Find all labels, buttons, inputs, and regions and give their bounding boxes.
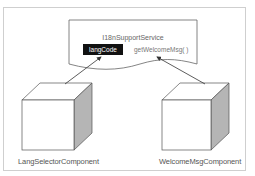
lang-selector-cube-icon xyxy=(22,83,92,150)
welcome-msg-component-label: WelcomeMsgComponent xyxy=(159,157,241,166)
welcome-msg-cube-icon xyxy=(162,83,229,150)
langcode-property: langCode xyxy=(83,44,123,55)
service-title: I18nSupportService xyxy=(102,34,163,41)
arrow-welcome-to-getwelcomemsg xyxy=(157,57,205,84)
lang-selector-component-label: LangSelectorComponent xyxy=(18,157,99,166)
get-welcome-msg-method: getWelcomeMsg( ) xyxy=(134,46,188,53)
diagram-canvas xyxy=(0,0,255,176)
